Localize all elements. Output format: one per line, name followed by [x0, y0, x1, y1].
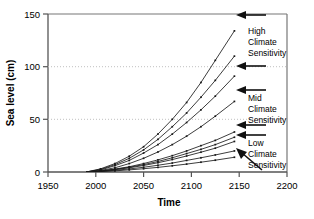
- x-axis-ticks: 1950 2000 2050 2100 2150 2200: [37, 172, 297, 191]
- curve-marker: [171, 162, 173, 164]
- curve-marker: [214, 147, 216, 149]
- curve-marker: [157, 144, 159, 146]
- annot-high-line3: Sensitivity: [248, 48, 287, 58]
- x-tick-2000: 2000: [85, 180, 106, 191]
- curve-marker: [171, 159, 173, 161]
- curve-marker: [186, 135, 188, 137]
- curve-marker: [200, 145, 202, 147]
- curve-marker: [186, 153, 188, 155]
- curve-marker: [200, 161, 202, 163]
- curve-marker: [171, 155, 173, 157]
- curve-marker: [143, 146, 145, 148]
- curve-marker: [234, 101, 236, 103]
- curve-marker: [128, 160, 130, 162]
- y-tick-0: 0: [35, 167, 40, 178]
- curve-marker: [214, 140, 216, 142]
- annotation-mid: Mid Climate Sensitivity: [248, 93, 287, 125]
- annot-mid-line1: Mid: [248, 93, 262, 103]
- curve-marker: [171, 165, 173, 167]
- data-curves-group: [86, 30, 235, 172]
- curve-marker: [234, 156, 236, 158]
- curve-marker: [171, 144, 173, 146]
- x-tick-2050: 2050: [133, 180, 154, 191]
- arrow-high-2: [236, 62, 266, 70]
- curve-marker: [186, 102, 188, 104]
- curve-marker: [128, 169, 130, 171]
- curve-line: [86, 76, 234, 172]
- curve-marker: [157, 151, 159, 153]
- curve-marker: [128, 157, 130, 159]
- curve-marker: [128, 155, 130, 157]
- curve-marker: [234, 55, 236, 57]
- annot-mid-line3: Sensitivity: [248, 115, 287, 125]
- y-tick-50: 50: [29, 114, 40, 125]
- curve-marker: [143, 168, 145, 170]
- curve-marker: [157, 159, 159, 161]
- x-tick-2200: 2200: [276, 180, 297, 191]
- curve-marker: [186, 112, 188, 114]
- curve-marker: [186, 160, 188, 162]
- curve-marker: [143, 152, 145, 154]
- curve-marker: [186, 150, 188, 152]
- curve-marker: [200, 157, 202, 159]
- curve-marker: [214, 80, 216, 82]
- curve-marker: [234, 131, 236, 133]
- y-tick-150: 150: [24, 9, 40, 20]
- y-axis-title: Sea level (cm): [5, 60, 16, 127]
- curve-marker: [214, 95, 216, 97]
- curve-marker: [234, 150, 236, 152]
- curve-marker: [234, 75, 236, 77]
- y-axis-ticks: 0 50 100 150: [24, 9, 48, 178]
- curve-marker: [171, 126, 173, 128]
- curve-marker: [186, 163, 188, 165]
- curve-marker: [143, 157, 145, 159]
- curve-marker: [200, 109, 202, 111]
- curve-marker: [157, 167, 159, 169]
- curve-marker: [234, 141, 236, 143]
- curve-marker: [234, 136, 236, 138]
- sea-level-chart-figure: 0 50 100 150 1950 2000 2050 2100 2150 22…: [0, 0, 314, 219]
- x-tick-2100: 2100: [181, 180, 202, 191]
- curve-marker: [157, 139, 159, 141]
- annot-low-line1: Low: [248, 138, 264, 148]
- curve-marker: [214, 154, 216, 156]
- x-axis-title: Time: [157, 197, 181, 208]
- curve-marker: [200, 126, 202, 128]
- curve-marker: [157, 162, 159, 164]
- curve-marker: [171, 133, 173, 135]
- annot-high-line2: Climate: [248, 37, 277, 47]
- curve-marker: [214, 144, 216, 146]
- curve-marker: [143, 165, 145, 167]
- annot-mid-line2: Climate: [248, 104, 277, 114]
- chart-svg: 0 50 100 150 1950 2000 2050 2100 2150 22…: [0, 0, 314, 219]
- curve-line: [86, 56, 234, 172]
- curve-marker: [200, 82, 202, 84]
- curve-marker: [143, 166, 145, 168]
- annotation-low: Low Climate Sensitivity: [248, 138, 287, 170]
- annot-low-line3: Sensitivity: [248, 160, 287, 170]
- curve-marker: [114, 170, 116, 172]
- curve-marker: [157, 133, 159, 135]
- curve-marker: [157, 164, 159, 166]
- y-tick-100: 100: [24, 61, 40, 72]
- annotation-high: High Climate Sensitivity: [248, 26, 287, 58]
- arrow-high-1: [236, 11, 266, 19]
- x-tick-2150: 2150: [229, 180, 250, 191]
- curve-marker: [128, 163, 130, 165]
- curve-marker: [200, 96, 202, 98]
- curve-marker: [214, 159, 216, 161]
- curve-marker: [214, 115, 216, 117]
- curve-marker: [234, 30, 236, 32]
- annot-high-line1: High: [248, 26, 266, 36]
- curve-marker: [200, 149, 202, 151]
- annot-low-line2: Climate: [248, 149, 277, 159]
- curve-marker: [214, 60, 216, 62]
- curve-marker: [114, 165, 116, 167]
- curve-marker: [186, 122, 188, 124]
- curve-marker: [186, 155, 188, 157]
- curve-marker: [171, 157, 173, 159]
- curve-marker: [171, 118, 173, 120]
- x-tick-1950: 1950: [37, 180, 58, 191]
- curve-marker: [143, 149, 145, 151]
- curve-marker: [200, 151, 202, 153]
